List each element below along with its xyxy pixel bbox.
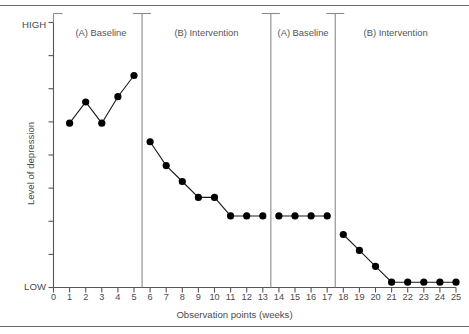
x-axis-tick-label: 8 bbox=[174, 292, 190, 302]
x-axis-tick-label: 14 bbox=[271, 292, 287, 302]
x-axis-tick-label: 9 bbox=[190, 292, 206, 302]
y-axis-title: Level of depression bbox=[25, 94, 36, 234]
data-point bbox=[324, 212, 331, 219]
data-point bbox=[291, 212, 298, 219]
data-point bbox=[147, 138, 154, 145]
data-point bbox=[66, 120, 73, 127]
x-axis-tick-label: 7 bbox=[158, 292, 174, 302]
data-point bbox=[308, 212, 315, 219]
x-axis-tick-label: 2 bbox=[78, 292, 94, 302]
data-point bbox=[275, 212, 282, 219]
phase-label-3: (A) Baseline bbox=[278, 27, 329, 38]
x-axis-title: Observation points (weeks) bbox=[0, 309, 469, 320]
data-point bbox=[452, 279, 459, 286]
x-axis-tick-label: 12 bbox=[239, 292, 255, 302]
x-axis-tick-label: 13 bbox=[255, 292, 271, 302]
y-axis-high-label: HIGH bbox=[22, 19, 46, 30]
x-axis-tick-label: 25 bbox=[448, 292, 464, 302]
x-axis-tick-label: 15 bbox=[287, 292, 303, 302]
data-point bbox=[227, 212, 234, 219]
data-point bbox=[130, 72, 137, 79]
data-point bbox=[98, 120, 105, 127]
x-axis-tick-label: 5 bbox=[126, 292, 142, 302]
data-point bbox=[195, 194, 202, 201]
data-point bbox=[179, 178, 186, 185]
data-point bbox=[114, 93, 121, 100]
chart-plot-area bbox=[0, 0, 469, 334]
data-point bbox=[163, 162, 170, 169]
data-point bbox=[404, 279, 411, 286]
figure-container: HIGH LOW Level of depression Observation… bbox=[0, 0, 469, 334]
x-axis-tick-label: 18 bbox=[335, 292, 351, 302]
x-axis-tick-label: 24 bbox=[432, 292, 448, 302]
data-point bbox=[420, 279, 427, 286]
x-axis-tick-label: 11 bbox=[223, 292, 239, 302]
x-axis-tick-label: 21 bbox=[384, 292, 400, 302]
data-point bbox=[436, 279, 443, 286]
data-point bbox=[356, 247, 363, 254]
series-segment-2 bbox=[150, 142, 263, 216]
series-segment-1 bbox=[70, 76, 134, 124]
phase-label-4: (B) Intervention bbox=[364, 27, 428, 38]
data-point bbox=[372, 263, 379, 270]
x-axis-tick-label: 20 bbox=[368, 292, 384, 302]
x-axis-tick-label: 1 bbox=[62, 292, 78, 302]
data-point bbox=[211, 194, 218, 201]
x-axis-tick-label: 6 bbox=[142, 292, 158, 302]
data-point bbox=[340, 231, 347, 238]
phase-label-1: (A) Baseline bbox=[75, 27, 126, 38]
x-axis-tick-label: 23 bbox=[416, 292, 432, 302]
x-axis-tick-label: 17 bbox=[319, 292, 335, 302]
x-axis-tick-label: 16 bbox=[303, 292, 319, 302]
data-point bbox=[82, 98, 89, 105]
data-point bbox=[259, 212, 266, 219]
x-axis-tick-label: 3 bbox=[94, 292, 110, 302]
x-axis-tick-label: 10 bbox=[207, 292, 223, 302]
x-axis-tick-label: 0 bbox=[46, 292, 62, 302]
data-point bbox=[388, 279, 395, 286]
phase-label-2: (B) Intervention bbox=[174, 27, 238, 38]
x-axis-tick-label: 19 bbox=[351, 292, 367, 302]
data-point bbox=[243, 212, 250, 219]
series-segment-4 bbox=[343, 235, 456, 283]
x-axis-tick-label: 4 bbox=[110, 292, 126, 302]
x-axis-tick-label: 22 bbox=[400, 292, 416, 302]
y-axis-low-label: LOW bbox=[24, 281, 46, 292]
